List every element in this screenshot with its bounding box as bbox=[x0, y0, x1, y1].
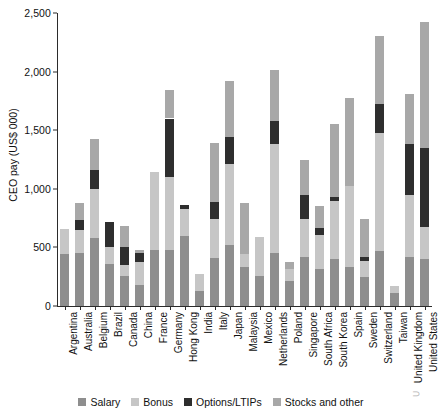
bar-segment-bonus bbox=[240, 254, 249, 267]
bar-mexico[interactable] bbox=[255, 237, 264, 306]
bar-taiwan[interactable] bbox=[390, 286, 399, 307]
legend-item-options-ltips[interactable]: Options/LTIPs bbox=[184, 396, 262, 408]
bar-segment-bonus bbox=[150, 172, 159, 250]
x-axis-label-united-kingdom: United Kingdom bbox=[414, 312, 423, 383]
bar-germany[interactable] bbox=[165, 90, 174, 306]
bar-malaysia[interactable] bbox=[240, 203, 249, 306]
bar-segment-salary bbox=[165, 250, 174, 306]
bar-segment-stocks-and-other bbox=[240, 203, 249, 255]
bar-sweden[interactable] bbox=[360, 219, 369, 306]
bar-segment-stocks-and-other bbox=[375, 36, 384, 105]
bar-china[interactable] bbox=[135, 250, 144, 306]
bar-segment-bonus bbox=[330, 201, 339, 260]
x-axis-label-france: France bbox=[159, 312, 168, 343]
bar-segment-bonus bbox=[105, 247, 114, 263]
bar-south-korea[interactable] bbox=[330, 124, 339, 306]
legend-item-stocks-and-other[interactable]: Stocks and other bbox=[273, 396, 364, 408]
x-axis-label-japan: Japan bbox=[234, 312, 243, 339]
bar-segment-options-ltips bbox=[75, 220, 84, 230]
bar-united-states[interactable] bbox=[420, 22, 429, 306]
bar-netherlands[interactable] bbox=[270, 70, 279, 306]
bar-segment-stocks-and-other bbox=[360, 219, 369, 257]
chart-container: CEO pay (US$ 000) ⊃ SalaryBonusOptions/L… bbox=[0, 0, 442, 417]
x-axis-tick-mark bbox=[275, 306, 276, 310]
bar-segment-stocks-and-other bbox=[270, 70, 279, 120]
bar-japan[interactable] bbox=[225, 81, 234, 306]
x-axis-tick-mark bbox=[200, 306, 201, 310]
bar-segment-options-ltips bbox=[375, 104, 384, 132]
bar-spain[interactable] bbox=[345, 98, 354, 306]
bar-segment-salary bbox=[195, 291, 204, 306]
x-axis-label-canada: Canada bbox=[129, 312, 138, 347]
x-axis-tick-mark bbox=[185, 306, 186, 310]
y-axis-tick-mark bbox=[53, 247, 57, 248]
bar-segment-stocks-and-other bbox=[225, 81, 234, 137]
bar-segment-salary bbox=[345, 267, 354, 306]
x-axis-label-poland: Poland bbox=[294, 312, 303, 343]
cropped-title-sliver bbox=[40, 0, 240, 5]
bar-segment-salary bbox=[135, 285, 144, 306]
bar-segment-bonus bbox=[375, 133, 384, 251]
bar-segment-salary bbox=[105, 264, 114, 306]
x-axis-tick-mark bbox=[245, 306, 246, 310]
bar-switzerland[interactable] bbox=[375, 36, 384, 306]
bar-segment-options-ltips bbox=[135, 253, 144, 262]
bar-poland[interactable] bbox=[285, 262, 294, 306]
bar-brazil[interactable] bbox=[105, 222, 114, 306]
x-axis-label-italy: Italy bbox=[219, 312, 228, 330]
bar-segment-options-ltips bbox=[270, 121, 279, 144]
bar-segment-bonus bbox=[390, 286, 399, 294]
x-axis-tick-mark bbox=[155, 306, 156, 310]
bar-australia[interactable] bbox=[75, 203, 84, 306]
bar-segment-options-ltips bbox=[405, 144, 414, 194]
bar-segment-salary bbox=[90, 238, 99, 306]
bar-segment-stocks-and-other bbox=[75, 203, 84, 220]
bar-segment-bonus bbox=[420, 227, 429, 259]
bar-segment-stocks-and-other bbox=[120, 226, 129, 248]
legend-item-bonus[interactable]: Bonus bbox=[131, 396, 173, 408]
x-axis-tick-mark bbox=[365, 306, 366, 310]
bar-segment-salary bbox=[360, 277, 369, 306]
bar-segment-options-ltips bbox=[330, 197, 339, 201]
bar-segment-bonus bbox=[255, 237, 264, 276]
legend-item-salary[interactable]: Salary bbox=[78, 396, 120, 408]
plot-area bbox=[57, 13, 432, 306]
x-axis-tick-mark bbox=[140, 306, 141, 310]
y-axis-tick-mark bbox=[53, 306, 57, 307]
x-axis-label-india: India bbox=[204, 312, 213, 334]
x-axis-label-germany: Germany bbox=[174, 312, 183, 353]
bar-segment-salary bbox=[255, 276, 264, 306]
bar-segment-bonus bbox=[405, 195, 414, 257]
bar-segment-stocks-and-other bbox=[420, 22, 429, 147]
bar-argentina[interactable] bbox=[60, 229, 69, 306]
bar-segment-bonus bbox=[360, 261, 369, 276]
bar-segment-options-ltips bbox=[360, 257, 369, 262]
bar-segment-bonus bbox=[300, 219, 309, 257]
bar-segment-salary bbox=[300, 257, 309, 306]
bar-belgium[interactable] bbox=[90, 139, 99, 306]
x-axis-tick-mark bbox=[320, 306, 321, 310]
bar-segment-stocks-and-other bbox=[210, 143, 219, 203]
bar-segment-salary bbox=[75, 253, 84, 306]
bar-segment-stocks-and-other bbox=[315, 206, 324, 228]
bar-south-africa[interactable] bbox=[315, 206, 324, 306]
x-axis-label-united-states: United States bbox=[429, 312, 438, 372]
bar-segment-salary bbox=[405, 257, 414, 306]
x-axis-tick-mark bbox=[425, 306, 426, 310]
bar-segment-salary bbox=[225, 245, 234, 306]
bar-singapore[interactable] bbox=[300, 160, 309, 307]
bar-india[interactable] bbox=[195, 274, 204, 306]
bar-france[interactable] bbox=[150, 172, 159, 306]
bar-united-kingdom[interactable] bbox=[405, 94, 414, 306]
x-axis-tick-mark bbox=[80, 306, 81, 310]
x-axis-label-spain: Spain bbox=[354, 312, 363, 338]
bar-hong-kong[interactable] bbox=[180, 205, 189, 306]
bar-segment-bonus bbox=[225, 164, 234, 245]
bar-canada[interactable] bbox=[120, 226, 129, 306]
bar-segment-salary bbox=[285, 281, 294, 306]
bar-segment-salary bbox=[210, 258, 219, 306]
bar-italy[interactable] bbox=[210, 143, 219, 306]
x-axis-label-belgium: Belgium bbox=[99, 312, 108, 348]
x-axis-label-argentina: Argentina bbox=[69, 312, 78, 355]
bar-segment-salary bbox=[240, 267, 249, 306]
